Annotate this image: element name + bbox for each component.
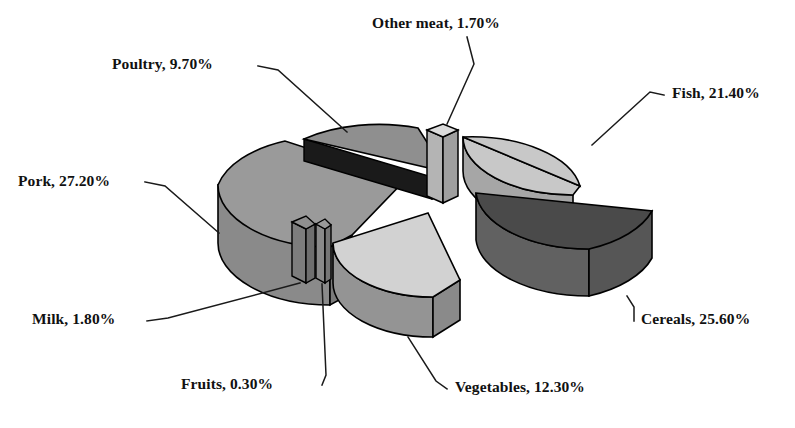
slice-label-vegetables: Vegetables, 12.30%: [455, 378, 585, 396]
leader-line-cereals: [627, 296, 634, 321]
slice-label-pork: Pork, 27.20%: [18, 172, 110, 190]
pie-slice-fruits: [316, 219, 331, 283]
slice-label-milk: Milk, 1.80%: [32, 310, 115, 328]
slice-label-fruits: Fruits, 0.30%: [181, 375, 273, 393]
leader-line-vegetables: [408, 337, 447, 389]
leader-line-milk: [147, 283, 300, 321]
slice-label-poultry: Poultry, 9.70%: [112, 55, 213, 73]
slice-label-fish: Fish, 21.40%: [672, 84, 760, 102]
leader-line-other-meat: [447, 37, 474, 124]
pie-slice-cereals: [476, 193, 652, 296]
pie-chart: Other meat, 1.70% Poultry, 9.70% Fish, 2…: [0, 0, 795, 428]
slice-label-other-meat: Other meat, 1.70%: [372, 14, 500, 32]
leader-line-pork: [145, 182, 219, 233]
pie-slice-milk: [292, 216, 315, 283]
leader-line-poultry: [258, 66, 347, 132]
leader-line-fish: [592, 92, 664, 145]
slice-label-cereals: Cereals, 25.60%: [641, 310, 750, 328]
pie-slice-other-meat: [427, 124, 458, 203]
